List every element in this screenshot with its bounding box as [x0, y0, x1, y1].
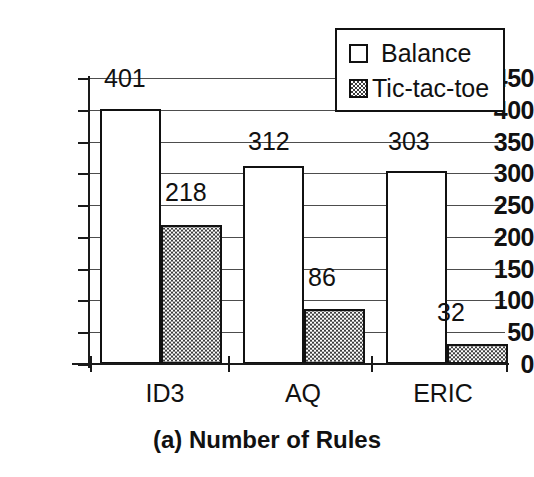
legend-item-balance: Balance — [349, 36, 503, 71]
y-tick-300 — [78, 173, 90, 175]
bar-eric-balance — [386, 171, 447, 364]
y-tick-label-250: 250 — [470, 193, 534, 218]
y-tick-100 — [78, 300, 90, 302]
x-tick-right — [506, 356, 508, 372]
y-tick-label-150: 150 — [470, 257, 534, 282]
bar-aq-balance — [243, 166, 304, 364]
value-label-eric-balance: 303 — [388, 129, 430, 154]
y-tick-350 — [78, 142, 90, 144]
y-tick-label-350: 350 — [470, 130, 534, 155]
y-tick-400 — [78, 110, 90, 112]
y-tick-label-0: 0 — [470, 352, 534, 377]
y-axis-line — [88, 76, 90, 368]
bar-aq-tictactoe — [304, 309, 365, 364]
bar-id3-tictactoe — [161, 225, 222, 364]
x-tick-label-id3: ID3 — [100, 381, 230, 406]
value-label-aq-tictactoe: 86 — [308, 265, 336, 290]
y-tick-label-100: 100 — [470, 288, 534, 313]
x-tick-aq-eric — [371, 356, 373, 372]
y-tick-150 — [78, 269, 90, 271]
value-label-id3-tictactoe: 218 — [165, 180, 207, 205]
legend: Balance Tic-tac-toe — [335, 28, 505, 112]
legend-label-tictactoe: Tic-tac-toe — [372, 76, 489, 101]
value-label-eric-tictactoe: 32 — [437, 300, 465, 325]
y-tick-0 — [78, 364, 90, 366]
chart-figure: 450 400 350 300 250 200 150 100 50 0 ID3… — [0, 0, 534, 477]
empty-square-icon — [349, 44, 368, 63]
checkered-square-icon — [349, 79, 368, 98]
bar-id3-balance — [100, 109, 161, 364]
figure-caption: (a) Number of Rules — [0, 428, 534, 452]
y-tick-label-50: 50 — [470, 320, 534, 345]
value-label-aq-balance: 312 — [248, 129, 290, 154]
y-tick-label-200: 200 — [470, 225, 534, 250]
x-tick-label-eric: ERIC — [378, 381, 508, 406]
legend-label-balance: Balance — [381, 41, 471, 66]
x-tick-id3-aq — [228, 356, 230, 372]
x-tick-label-aq: AQ — [238, 381, 368, 406]
x-axis-line — [72, 363, 509, 365]
y-tick-200 — [78, 237, 90, 239]
y-tick-250 — [78, 205, 90, 207]
y-tick-450 — [78, 78, 90, 80]
y-tick-label-300: 300 — [470, 161, 534, 186]
legend-item-tictactoe: Tic-tac-toe — [349, 71, 503, 106]
y-tick-50 — [78, 332, 90, 334]
x-tick-left — [90, 356, 92, 372]
value-label-id3-balance: 401 — [104, 66, 146, 91]
